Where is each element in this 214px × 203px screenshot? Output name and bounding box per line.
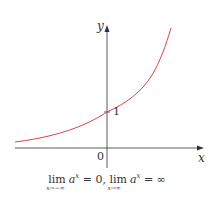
origin-label: 0 xyxy=(97,150,104,163)
x-axis-arrow-icon xyxy=(197,146,204,151)
limit-pos-inf: limx→∞ xyxy=(109,173,126,186)
y-axis-label: y xyxy=(97,19,104,33)
x-axis-label: x xyxy=(198,151,205,165)
exponential-curve xyxy=(15,28,171,142)
y-tick-label-1: 1 xyxy=(113,105,120,118)
limit-neg-inf: limx→−∞ xyxy=(48,173,65,186)
limits-caption: limx→−∞ax = 0, limx→∞ax = ∞ xyxy=(0,172,214,186)
y-axis-arrow-icon xyxy=(105,25,110,32)
